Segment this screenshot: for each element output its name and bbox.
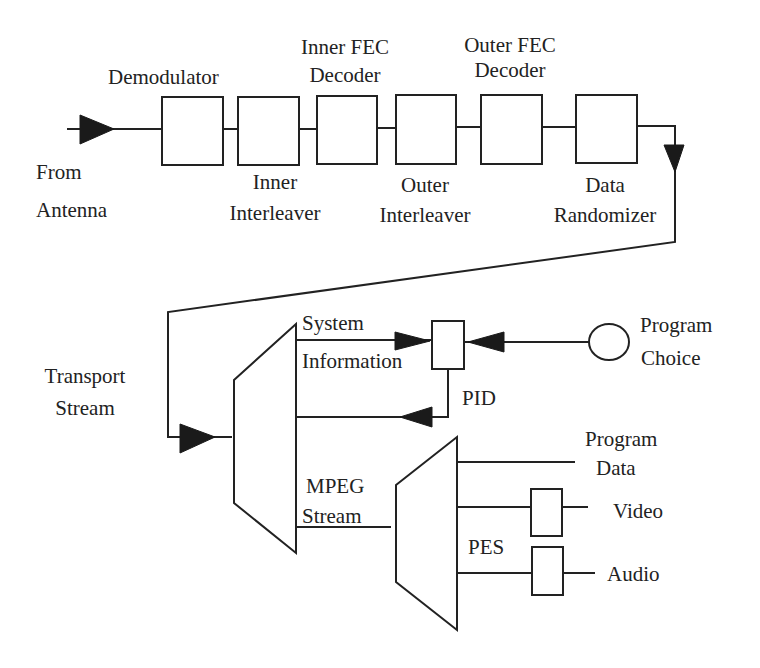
outer-fec-decoder-block	[481, 95, 542, 164]
outer-interleaver-block	[396, 95, 456, 164]
system-label: System	[302, 311, 364, 335]
pes-label: PES	[468, 535, 504, 559]
outer-fec-label: Outer FEC	[440, 33, 580, 57]
si-arrow-icon	[395, 332, 430, 350]
from-label: From	[36, 160, 82, 184]
mpeg-label: MPEG	[306, 474, 364, 498]
video-block	[531, 489, 562, 536]
pid-arrow-icon	[400, 407, 432, 427]
demodulator-block	[162, 97, 223, 165]
interleaver-label: Interleaver	[205, 201, 345, 225]
pid-label: PID	[462, 386, 496, 410]
video-label: Video	[613, 499, 663, 523]
program-choice-arrow-icon	[468, 332, 504, 352]
outer-label: Outer	[370, 173, 480, 197]
decoder-label: Decoder	[280, 63, 410, 87]
receiver-block-diagram: From Antenna Demodulator Inner Interleav…	[0, 0, 760, 668]
inner-interleaver-block	[238, 97, 299, 165]
transport-arrow-icon	[180, 424, 215, 453]
down-arrow-icon	[664, 145, 684, 172]
program-data-label-2: Data	[596, 456, 636, 480]
data-randomizer-block	[576, 95, 637, 163]
antenna-label: Antenna	[36, 198, 107, 222]
randomizer-label: Randomizer	[535, 203, 675, 227]
demodulator-label: Demodulator	[108, 65, 219, 89]
outer-decoder-label: Decoder	[440, 58, 580, 82]
choice-label: Choice	[641, 346, 700, 370]
audio-label: Audio	[607, 562, 660, 586]
program-label: Program	[640, 313, 712, 337]
outer-interleaver-label: Interleaver	[355, 203, 495, 227]
pid-block	[432, 321, 464, 369]
inner-fec-label: Inner FEC	[280, 35, 410, 59]
demux-1	[234, 324, 296, 553]
mpeg-stream-label: Stream	[302, 504, 361, 528]
program-data-label-1: Program	[585, 427, 657, 451]
inner-fec-decoder-block	[317, 96, 377, 164]
stream-label: Stream	[30, 396, 140, 420]
input-arrow-icon	[80, 115, 114, 144]
program-choice-circle	[589, 324, 629, 360]
demux-2	[396, 437, 457, 630]
audio-block	[532, 547, 563, 595]
data-label: Data	[560, 173, 650, 197]
information-label: Information	[302, 349, 402, 373]
transport-label: Transport	[30, 364, 140, 388]
inner-label: Inner	[225, 170, 325, 194]
